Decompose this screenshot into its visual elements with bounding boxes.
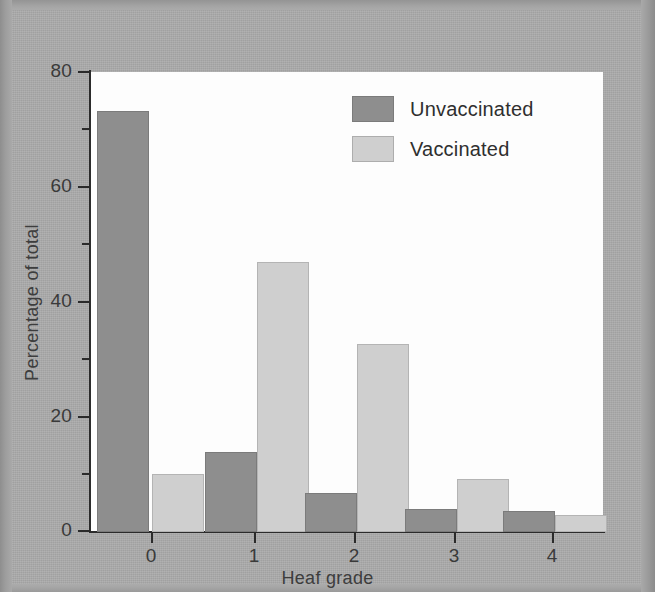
y-tick-10 bbox=[82, 473, 90, 475]
bar-vaccinated-grade-3 bbox=[457, 479, 509, 532]
x-tick-2 bbox=[354, 532, 356, 543]
legend-label-vaccinated: Vaccinated bbox=[410, 138, 509, 161]
y-tick-label-80: 80 bbox=[12, 60, 72, 82]
bar-vaccinated-grade-0 bbox=[152, 474, 204, 532]
x-tick-label-4: 4 bbox=[532, 545, 572, 567]
y-tick-70 bbox=[82, 128, 90, 130]
scan-edge-top bbox=[0, 0, 655, 10]
x-tick-label-0: 0 bbox=[131, 545, 171, 567]
y-tick-80 bbox=[78, 71, 90, 73]
x-tick-label-2: 2 bbox=[334, 545, 374, 567]
x-tick-3 bbox=[454, 532, 456, 543]
y-tick-40 bbox=[78, 301, 90, 303]
bar-unvaccinated-grade-0 bbox=[97, 111, 149, 532]
legend-entry-unvaccinated: Unvaccinated bbox=[352, 92, 534, 126]
x-tick-label-3: 3 bbox=[434, 545, 474, 567]
y-tick-label-0: 0 bbox=[12, 519, 72, 541]
bar-vaccinated-grade-1 bbox=[257, 262, 309, 532]
y-axis-title: Percentage of total bbox=[22, 183, 43, 423]
legend-swatch-unvaccinated bbox=[352, 96, 394, 122]
bar-unvaccinated-grade-2 bbox=[305, 493, 357, 532]
y-tick-0 bbox=[78, 530, 90, 532]
x-tick-1 bbox=[254, 532, 256, 543]
x-tick-4 bbox=[552, 532, 554, 543]
bar-vaccinated-grade-4 bbox=[555, 515, 607, 532]
x-axis-title: Heaf grade bbox=[0, 568, 655, 589]
bar-unvaccinated-grade-4 bbox=[503, 511, 555, 532]
y-tick-50 bbox=[82, 243, 90, 245]
bar-unvaccinated-grade-3 bbox=[405, 509, 457, 532]
y-tick-20 bbox=[78, 416, 90, 418]
x-tick-label-1: 1 bbox=[234, 545, 274, 567]
scan-edge-left bbox=[0, 0, 12, 592]
legend-label-unvaccinated: Unvaccinated bbox=[410, 98, 534, 121]
bar-vaccinated-grade-2 bbox=[357, 344, 409, 532]
figure-canvas: 80 60 40 20 0 Percentage of total 0 1 2 … bbox=[0, 0, 655, 592]
legend: Unvaccinated Vaccinated bbox=[352, 92, 534, 172]
y-tick-60 bbox=[78, 186, 90, 188]
scan-edge-right bbox=[641, 0, 655, 592]
y-tick-30 bbox=[82, 358, 90, 360]
bar-unvaccinated-grade-1 bbox=[205, 452, 257, 532]
legend-entry-vaccinated: Vaccinated bbox=[352, 132, 534, 166]
legend-swatch-vaccinated bbox=[352, 136, 394, 162]
x-tick-0 bbox=[151, 532, 153, 543]
